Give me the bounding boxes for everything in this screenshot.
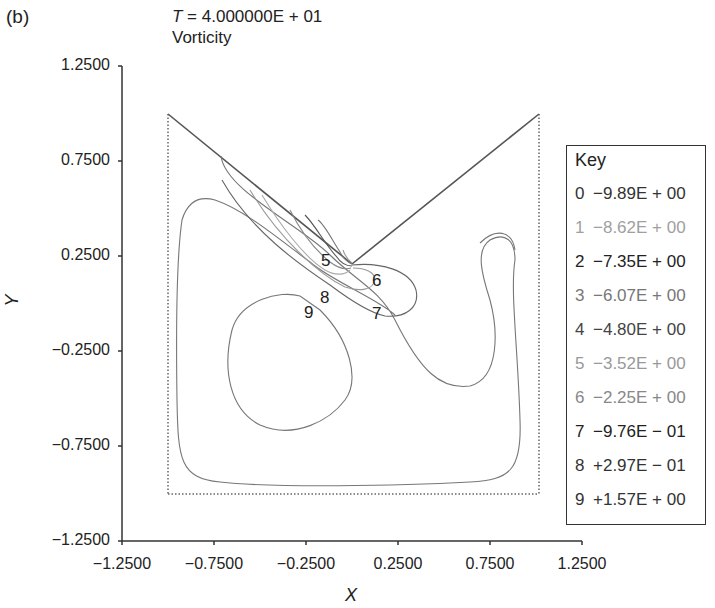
legend-index: 8 bbox=[575, 456, 593, 476]
legend-index: 4 bbox=[575, 320, 593, 340]
legend-index: 6 bbox=[575, 388, 593, 408]
contour-label: 8 bbox=[320, 288, 329, 307]
axes-lines bbox=[118, 66, 582, 545]
contour-lines bbox=[177, 156, 521, 486]
legend-item: 7−9.76E − 01 bbox=[575, 422, 686, 442]
legend-value: −4.80E + 00 bbox=[593, 320, 686, 339]
legend-value: −6.07E + 00 bbox=[593, 286, 686, 305]
contour-label: 6 bbox=[372, 271, 381, 290]
legend-value: −2.25E + 00 bbox=[593, 388, 686, 407]
legend-item: 2−7.35E + 00 bbox=[575, 252, 686, 272]
contour-label: 5 bbox=[321, 251, 330, 270]
legend-item: 4−4.80E + 00 bbox=[575, 320, 686, 340]
legend-key: Key 0−9.89E + 00 1−8.62E + 00 2−7.35E + … bbox=[566, 145, 706, 525]
legend-value: +1.57E + 00 bbox=[593, 490, 686, 509]
legend-item: 1−8.62E + 00 bbox=[575, 218, 686, 238]
legend-value: +2.97E − 01 bbox=[593, 456, 686, 475]
contour-label: 7 bbox=[372, 304, 381, 323]
legend-index: 9 bbox=[575, 490, 593, 510]
domain-boundary bbox=[168, 114, 539, 494]
legend-index: 2 bbox=[575, 252, 593, 272]
legend-item: 5−3.52E + 00 bbox=[575, 354, 686, 374]
contour-label: 9 bbox=[304, 303, 313, 322]
wedge-boundary bbox=[168, 114, 539, 264]
legend-value: −3.52E + 00 bbox=[593, 354, 686, 373]
legend-index: 1 bbox=[575, 218, 593, 238]
legend-value: −7.35E + 00 bbox=[593, 252, 686, 271]
legend-index: 3 bbox=[575, 286, 593, 306]
legend-value: −9.89E + 00 bbox=[593, 184, 686, 203]
legend-index: 0 bbox=[575, 184, 593, 204]
legend-title: Key bbox=[575, 150, 606, 171]
legend-index: 7 bbox=[575, 422, 593, 442]
legend-item: 3−6.07E + 00 bbox=[575, 286, 686, 306]
legend-item: 0−9.89E + 00 bbox=[575, 184, 686, 204]
legend-item: 8+2.97E − 01 bbox=[575, 456, 686, 476]
legend-value: −8.62E + 00 bbox=[593, 218, 686, 237]
legend-value: −9.76E − 01 bbox=[593, 422, 686, 441]
legend-item: 9+1.57E + 00 bbox=[575, 490, 686, 510]
legend-index: 5 bbox=[575, 354, 593, 374]
legend-item: 6−2.25E + 00 bbox=[575, 388, 686, 408]
